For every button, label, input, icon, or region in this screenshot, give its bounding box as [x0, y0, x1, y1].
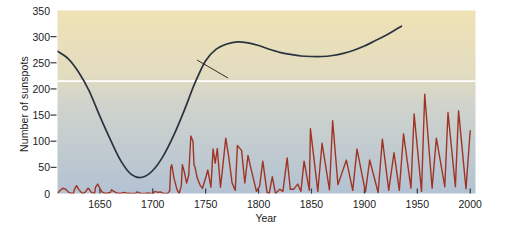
- plot-canvas: [0, 0, 507, 230]
- plot-background: [58, 11, 476, 194]
- y-axis-ticks: [51, 37, 57, 168]
- sunspot-winter-severity-figure: Number of sunspots Year 0501001502002503…: [0, 0, 507, 230]
